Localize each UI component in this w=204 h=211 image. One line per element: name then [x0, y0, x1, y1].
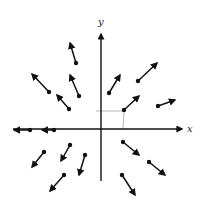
vector-base-dot: [122, 108, 126, 112]
vector-arrow: [32, 74, 51, 94]
vector-base-dot: [28, 128, 32, 132]
vector-base-dot: [77, 94, 81, 98]
vector-shaft: [32, 152, 44, 167]
vectors: [14, 43, 175, 195]
vector-shaft: [109, 75, 120, 93]
vector-arrow: [57, 95, 71, 111]
vector-arrow: [107, 75, 120, 95]
guide-vertical: [123, 111, 124, 129]
x-axis-label: x: [187, 123, 193, 134]
vector-arrow: [147, 160, 165, 175]
vector-base-dot: [121, 140, 125, 144]
vector-base-dot: [156, 104, 160, 108]
vector-shaft: [149, 162, 165, 175]
vector-arrow: [50, 173, 66, 191]
vector-shaft: [138, 63, 157, 81]
vector-arrow: [156, 100, 175, 108]
vector-arrow: [122, 96, 139, 112]
vector-shaft: [57, 95, 69, 109]
vector-arrow: [79, 153, 87, 175]
vector-shaft: [70, 75, 79, 96]
vector-base-dot: [68, 143, 72, 147]
vector-base-dot: [107, 91, 111, 95]
vector-base-dot: [120, 173, 124, 177]
vector-shaft: [61, 145, 70, 161]
vector-shaft: [122, 175, 135, 195]
vector-shaft: [123, 142, 139, 155]
vector-shaft: [50, 175, 64, 191]
vector-base-dot: [74, 61, 78, 65]
vector-arrow: [120, 173, 135, 195]
vector-arrow: [61, 143, 72, 161]
vector-base-dot: [136, 79, 140, 83]
vector-base-dot: [67, 107, 71, 111]
vector-shaft: [124, 96, 139, 110]
vector-shaft: [32, 74, 49, 92]
vector-field-diagram: x y: [0, 0, 204, 211]
vector-base-dot: [47, 90, 51, 94]
vector-base-dot: [52, 128, 56, 132]
vector-arrow: [121, 140, 139, 155]
vector-shaft: [70, 43, 76, 63]
vector-base-dot: [147, 160, 151, 164]
vector-arrow: [32, 150, 46, 167]
vector-base-dot: [83, 153, 87, 157]
vector-shaft: [79, 155, 85, 175]
vector-arrow: [70, 43, 78, 65]
vector-shaft: [158, 100, 175, 106]
vector-arrow: [136, 63, 157, 83]
vector-arrow: [70, 75, 81, 98]
y-axis-label: y: [97, 16, 104, 27]
guide-lines: [96, 111, 124, 129]
vector-base-dot: [62, 173, 66, 177]
vector-base-dot: [42, 150, 46, 154]
